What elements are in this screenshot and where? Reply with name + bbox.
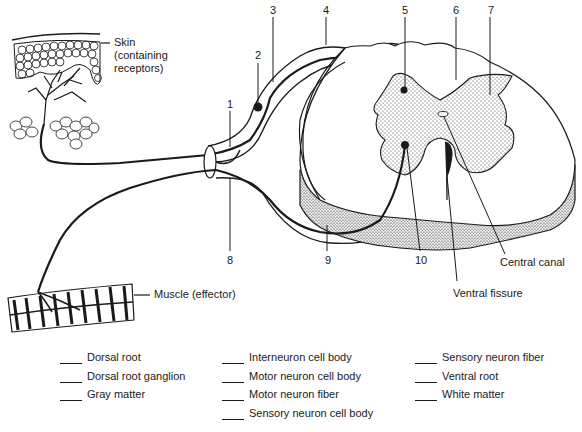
muscle-illustration <box>8 284 150 332</box>
answer-blank[interactable] <box>60 353 82 364</box>
key-item-dorsal-root: Dorsal root <box>60 351 185 370</box>
skin-label-line3: receptors) <box>114 62 168 75</box>
number-10: 10 <box>415 254 427 266</box>
skin-label: Skin (containing receptors) <box>114 36 168 75</box>
interneuron-cell-body <box>401 87 408 94</box>
ventral-fissure-label: Ventral fissure <box>453 287 523 300</box>
key-column-2: Interneuron cell body Motor neuron cell … <box>222 351 373 425</box>
key-column-1: Dorsal root Dorsal root ganglion Gray ma… <box>60 351 185 407</box>
key-label: Gray matter <box>87 388 145 400</box>
answer-blank[interactable] <box>222 390 244 401</box>
number-8: 8 <box>227 254 233 266</box>
muscle-label: Muscle (effector) <box>154 288 236 301</box>
answer-blank[interactable] <box>222 409 244 420</box>
key-label: White matter <box>442 388 504 400</box>
key-item-motor-neuron-cell-body: Motor neuron cell body <box>222 370 373 389</box>
key-column-3: Sensory neuron fiber Ventral root White … <box>415 351 544 407</box>
key-item-white-matter: White matter <box>415 388 544 407</box>
receptor-branches <box>28 68 86 124</box>
spinal-cord <box>300 42 575 250</box>
skin-label-line1: Skin <box>114 36 168 49</box>
central-canal <box>438 112 448 117</box>
number-3: 3 <box>270 4 276 16</box>
key-label: Sensory neuron fiber <box>442 351 544 363</box>
number-5: 5 <box>402 4 408 16</box>
number-2: 2 <box>255 49 261 61</box>
answer-blank[interactable] <box>222 353 244 364</box>
key-label: Interneuron cell body <box>249 351 352 363</box>
number-7: 7 <box>488 4 494 16</box>
key-item-interneuron-cell-body: Interneuron cell body <box>222 351 373 370</box>
answer-blank[interactable] <box>415 372 437 383</box>
number-4: 4 <box>323 4 329 16</box>
key-item-ventral-root: Ventral root <box>415 370 544 389</box>
key-item-sensory-neuron-fiber: Sensory neuron fiber <box>415 351 544 370</box>
number-6: 6 <box>453 4 459 16</box>
key-item-gray-matter: Gray matter <box>60 388 185 407</box>
answer-blank[interactable] <box>60 372 82 383</box>
answer-blank[interactable] <box>415 353 437 364</box>
tissue-cells <box>10 117 99 149</box>
number-9: 9 <box>325 254 331 266</box>
key-label: Motor neuron cell body <box>249 370 361 382</box>
number-1: 1 <box>227 98 233 110</box>
key-label: Dorsal root ganglion <box>87 370 185 382</box>
answer-blank[interactable] <box>222 372 244 383</box>
key-item-dorsal-root-ganglion: Dorsal root ganglion <box>60 370 185 389</box>
answer-blank[interactable] <box>415 390 437 401</box>
answer-blank[interactable] <box>60 390 82 401</box>
skin-label-line2: (containing <box>114 49 168 62</box>
key-label: Motor neuron fiber <box>249 388 339 400</box>
spinal-nerve-ring <box>204 146 216 178</box>
key-item-sensory-neuron-cell-body: Sensory neuron cell body <box>222 407 373 426</box>
key-item-motor-neuron-fiber: Motor neuron fiber <box>222 388 373 407</box>
key-label: Sensory neuron cell body <box>249 407 373 419</box>
skin-illustration <box>12 34 110 85</box>
central-canal-label: Central canal <box>500 256 565 269</box>
key-label: Ventral root <box>442 370 498 382</box>
key-label: Dorsal root <box>87 351 141 363</box>
